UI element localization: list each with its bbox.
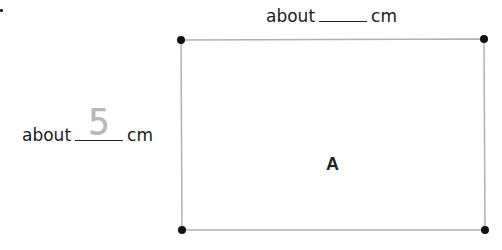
- corner-dot-top-left: [177, 36, 185, 44]
- left-measure-label: about5cm: [22, 125, 153, 145]
- corner-dot-bottom-right: [481, 226, 489, 234]
- corner-dot-bottom-left: [178, 226, 186, 234]
- corner-dot-top-right: [480, 35, 488, 43]
- top-measure-label: aboutcm: [266, 6, 397, 26]
- top-measure-answer-blank[interactable]: [319, 7, 367, 22]
- rectangle-outline: [181, 39, 485, 230]
- left-measure-answer: 5: [88, 105, 110, 139]
- left-measure-prefix: about: [22, 125, 71, 145]
- top-measure-prefix: about: [266, 6, 315, 26]
- shape-label: A: [326, 154, 339, 175]
- top-measure-unit: cm: [371, 6, 397, 26]
- left-measure-answer-blank[interactable]: 5: [75, 126, 123, 141]
- left-measure-unit: cm: [127, 125, 153, 145]
